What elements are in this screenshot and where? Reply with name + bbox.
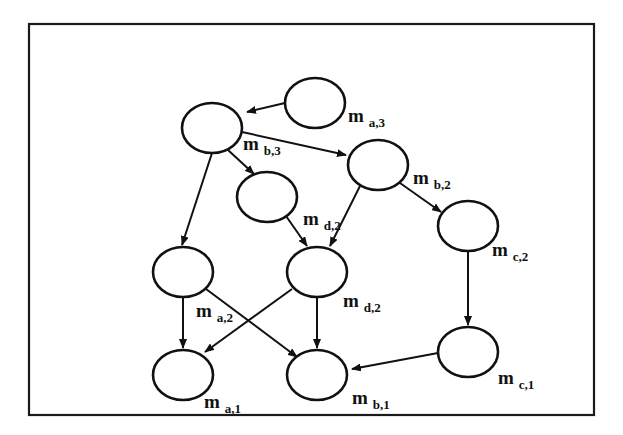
node-a3: ma,3 bbox=[285, 78, 386, 130]
node-circle bbox=[287, 350, 347, 400]
nodes-layer: ma,3mb,3mb,2md,2mc,2ma,2md,2mc,1ma,1mb,1 bbox=[153, 78, 534, 416]
graph-diagram: ma,3mb,3mb,2md,2mc,2ma,2md,2mc,1ma,1mb,1 bbox=[0, 0, 623, 435]
node-d2u: md,2 bbox=[237, 172, 341, 233]
node-circle bbox=[237, 172, 297, 222]
node-circle bbox=[348, 140, 408, 190]
edge-c1-to-b1 bbox=[352, 353, 438, 369]
node-label: mb,1 bbox=[352, 387, 390, 412]
node-label: md,2 bbox=[303, 208, 341, 233]
node-b3: mb,3 bbox=[182, 103, 281, 158]
node-label: ma,1 bbox=[204, 391, 241, 416]
node-circle bbox=[438, 327, 498, 377]
edge-b3-to-a2 bbox=[182, 153, 212, 245]
node-circle bbox=[153, 247, 213, 297]
node-c1: mc,1 bbox=[438, 327, 534, 392]
node-label: md,2 bbox=[343, 290, 381, 315]
node-b1: mb,1 bbox=[287, 350, 390, 412]
edge-b2-to-d2l bbox=[330, 186, 360, 246]
edge-a3-to-b3 bbox=[247, 103, 285, 112]
node-circle bbox=[287, 247, 347, 297]
node-label: mb,2 bbox=[413, 167, 451, 192]
node-c2: mc,2 bbox=[438, 201, 528, 264]
node-b2: mb,2 bbox=[348, 140, 451, 192]
node-circle bbox=[438, 201, 498, 251]
node-a2: ma,2 bbox=[153, 247, 233, 325]
node-label: ma,3 bbox=[348, 105, 386, 130]
node-circle bbox=[182, 103, 242, 153]
node-label: mc,2 bbox=[492, 239, 528, 264]
node-label: mc,1 bbox=[498, 367, 534, 392]
node-circle bbox=[285, 78, 345, 128]
node-d2l: md,2 bbox=[287, 247, 381, 315]
node-label: ma,2 bbox=[196, 300, 233, 325]
node-a1: ma,1 bbox=[153, 350, 241, 416]
